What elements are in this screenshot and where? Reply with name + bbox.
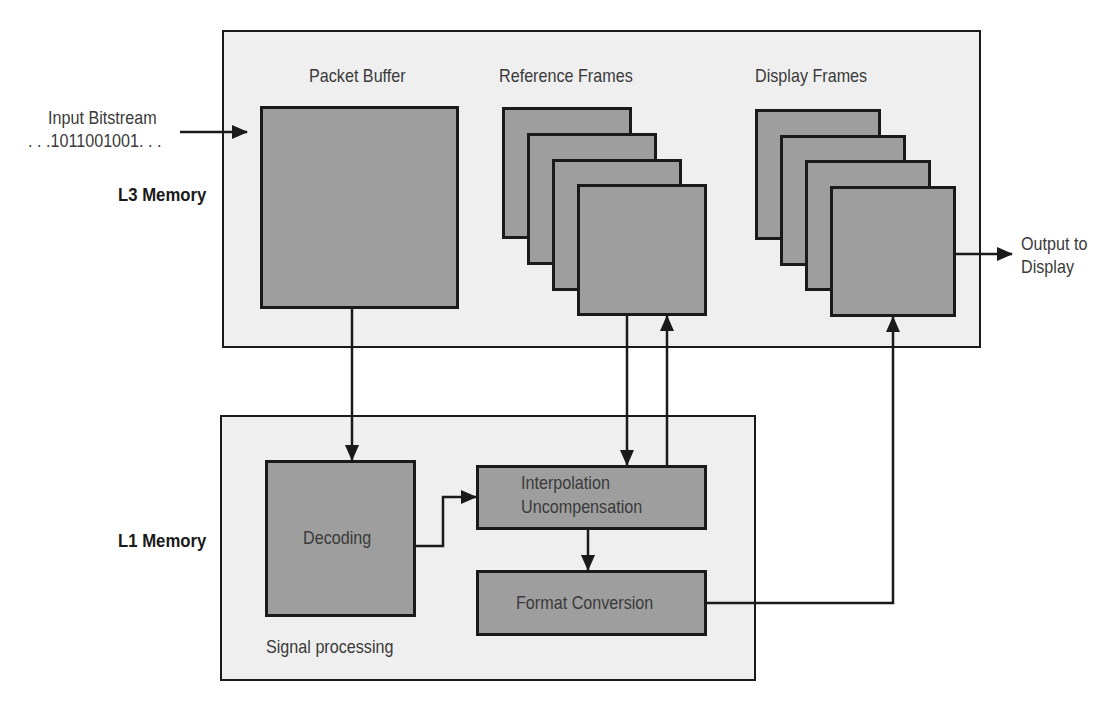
output-to-display-label-line2: Display xyxy=(1021,256,1074,278)
reference-frame-4 xyxy=(577,184,707,316)
reference-frames-heading: Reference Frames xyxy=(499,65,633,87)
packet-buffer-heading: Packet Buffer xyxy=(309,65,406,87)
interpolation-label: Interpolation xyxy=(521,472,610,494)
input-bitstream-label: Input Bitstream xyxy=(48,107,157,129)
uncompensation-label: Uncompensation xyxy=(521,496,642,518)
input-bitstream-bits: . . .1011001001. . . xyxy=(28,130,161,152)
format-conversion-label: Format Conversion xyxy=(516,592,653,614)
signal-processing-caption: Signal processing xyxy=(266,636,393,658)
l3-memory-label: L3 Memory xyxy=(118,184,206,206)
packet-buffer-block xyxy=(260,106,459,309)
display-frame-4 xyxy=(830,186,956,317)
decoding-label: Decoding xyxy=(303,527,371,549)
display-frames-heading: Display Frames xyxy=(755,65,867,87)
l1-memory-label: L1 Memory xyxy=(118,530,206,552)
output-to-display-label: Output to xyxy=(1021,233,1087,255)
